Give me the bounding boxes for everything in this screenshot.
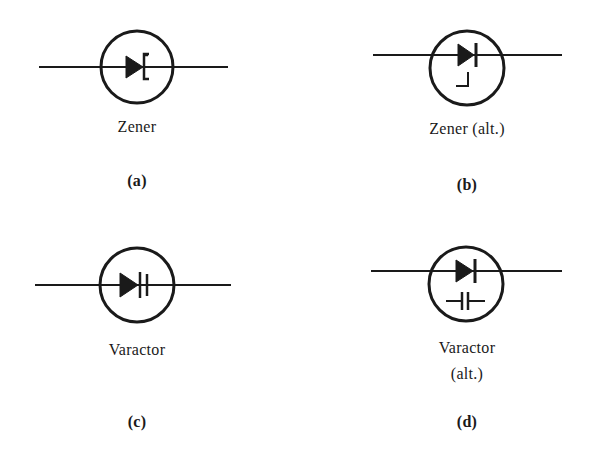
zener-alt-symbol — [373, 31, 562, 105]
diode-triangle-icon — [126, 56, 143, 78]
capacitor-icon — [446, 292, 485, 310]
zener-step-icon — [456, 72, 468, 86]
varactor-symbol — [35, 248, 231, 322]
zener-symbol — [39, 31, 228, 103]
panel-a-name: Zener — [118, 118, 157, 136]
schematic-symbols-diagram — [0, 0, 593, 450]
panel-b-caption: (b) — [457, 176, 477, 194]
diode-triangle-icon — [456, 260, 473, 282]
panel-d-name-line2: (alt.) — [451, 365, 483, 383]
envelope-circle — [430, 31, 504, 105]
diode-triangle-icon — [120, 273, 138, 297]
panel-c-name: Varactor — [109, 341, 166, 359]
diode-triangle-icon — [458, 44, 474, 66]
panel-b-name: Zener (alt.) — [429, 120, 505, 138]
panel-d-name-line1: Varactor — [439, 339, 496, 357]
panel-d-caption: (d) — [457, 413, 477, 431]
envelope-circle — [429, 247, 503, 321]
varactor-alt-symbol — [371, 247, 562, 321]
panel-c-caption: (c) — [128, 413, 147, 431]
panel-a-caption: (a) — [127, 172, 147, 190]
